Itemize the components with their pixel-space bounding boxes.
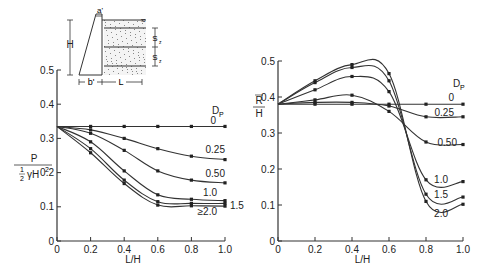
wall-inset-diagram: ≈a'Hb'LSzSz [66,6,162,87]
data-marker [387,72,390,75]
series-label: 1.5 [230,200,244,211]
y-label-rest: γH [27,169,39,180]
dim-a-label: a' [97,6,103,15]
x-tick-label: 0.8 [184,244,198,255]
data-marker [461,195,464,198]
series-label: 1.0 [203,187,217,198]
data-marker [123,149,126,152]
x-tick-label: 0.2 [308,244,322,255]
y-tick-label: 0.1 [40,201,54,212]
data-marker [156,125,159,128]
series-label: 0.50 [438,137,458,148]
data-marker [313,98,316,101]
series-line [57,126,225,200]
y-tick-label: 0.5 [261,56,275,67]
y-label-numerator: P [31,153,38,164]
y-tick-label: 0.3 [40,133,54,144]
series-line [278,76,463,187]
x-tick-label: 0.6 [382,244,396,255]
dim-l-label: L [118,77,123,87]
x-axis-label: L/H [355,254,371,265]
data-marker [190,155,193,158]
data-marker [190,125,193,128]
left-chart: 00.20.40.60.81.000.10.20.30.40.5L/H00.25… [14,65,244,266]
data-marker [461,143,464,146]
data-marker [156,147,159,150]
series-line [57,126,225,204]
y-label-numerator: R [255,95,262,106]
dim-sz1-label: S [152,34,157,43]
y-label-sup: 2 [45,166,49,173]
data-marker [190,179,193,182]
data-marker [313,79,316,82]
y-tick-label: 0.2 [261,164,275,175]
data-marker [123,169,126,172]
series-label: 1.5 [434,189,448,200]
series-label: 2.0 [434,208,448,219]
series-line [57,126,225,182]
x-tick-label: 0.6 [151,244,165,255]
y-label-denominator: H [255,108,262,119]
y-tick-label: 0.4 [40,99,54,110]
data-marker [223,158,226,161]
svg-text:z: z [159,58,162,64]
y-tick-label: 0.5 [40,65,54,76]
series-label: ≥2.0 [198,206,218,217]
data-marker [123,179,126,182]
data-marker [461,103,464,106]
data-marker [223,181,226,184]
data-marker [223,125,226,128]
series-label: 0 [210,115,216,126]
data-marker [89,125,92,128]
data-marker [223,202,226,205]
data-marker [424,178,427,181]
y-label-half-den: 2 [20,175,24,182]
series-line [57,126,225,207]
data-marker [350,75,353,78]
data-marker [89,151,92,154]
data-marker [89,140,92,143]
series-label: 0 [448,92,454,103]
y-tick-label: 0.3 [261,128,275,139]
data-marker [89,147,92,150]
legend-title-sub: P [219,111,224,118]
data-marker [387,104,390,107]
y-tick-label: 0.4 [261,92,275,103]
data-marker [387,79,390,82]
data-marker [461,203,464,206]
y-tick-label: 0 [48,236,54,247]
dim-b-label: b' [88,77,95,87]
data-marker [156,193,159,196]
x-tick-label: 1.0 [456,244,470,255]
y-tick-label: 0.1 [261,200,275,211]
data-marker [89,128,92,131]
data-marker [350,94,353,97]
series-label: 1.0 [434,174,448,185]
data-marker [424,140,427,143]
data-marker [123,125,126,128]
data-marker [350,66,353,69]
x-tick-label: 0 [275,244,281,255]
right-chart: 00.20.40.60.81.000.10.20.30.40.5L/H00.25… [253,56,470,266]
data-marker [123,137,126,140]
data-marker [313,88,316,91]
data-marker [424,193,427,196]
x-axis-label: L/H [125,254,141,265]
wall-shape [79,14,102,75]
y-tick-label: 0 [269,236,275,247]
data-marker [123,182,126,185]
x-tick-label: 0.2 [84,244,98,255]
data-marker [156,203,159,206]
legend-title-sub: P [460,84,465,91]
x-tick-label: 0 [54,244,60,255]
data-marker [350,63,353,66]
data-marker [461,180,464,183]
dim-h-label: H [66,39,73,50]
data-marker [190,198,193,201]
y-label-half-num: 1 [20,166,24,173]
data-marker [424,103,427,106]
series-label: 0.25 [206,144,226,155]
svg-text:z: z [159,39,162,45]
x-tick-label: 1.0 [218,244,232,255]
data-marker [156,169,159,172]
